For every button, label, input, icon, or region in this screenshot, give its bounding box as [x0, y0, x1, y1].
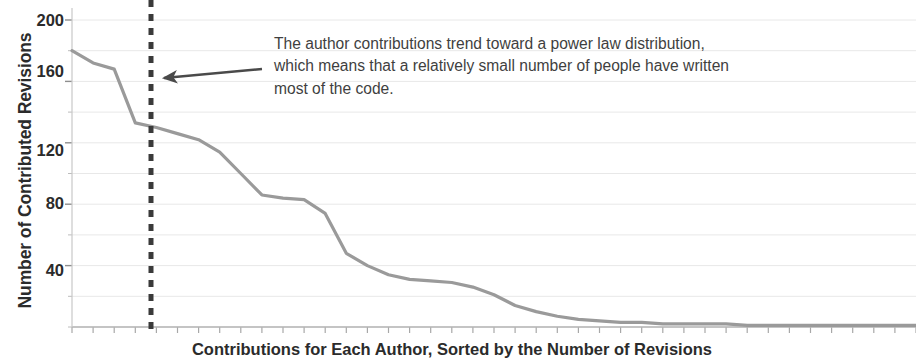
annotation-line-1: The author contributions trend toward a …: [274, 33, 874, 55]
y-axis-tick-marks: [65, 20, 72, 327]
annotation-line-3: most of the code.: [274, 78, 874, 100]
callout-arrow-icon: [164, 69, 262, 78]
annotation-line-2: which means that a relatively small numb…: [274, 55, 874, 77]
x-axis-tick-marks: [72, 327, 916, 333]
chart-annotation: The author contributions trend toward a …: [274, 33, 874, 100]
x-axis-title: Contributions for Each Author, Sorted by…: [72, 340, 832, 359]
